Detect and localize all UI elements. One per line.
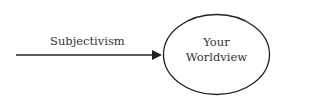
edge-label: Subjectivism — [50, 34, 125, 48]
arrowhead-icon — [152, 50, 162, 60]
worldview-node-label: Your Worldview — [163, 35, 270, 65]
node-label-line1: Your — [163, 35, 270, 50]
node-label-line2: Worldview — [163, 50, 270, 65]
